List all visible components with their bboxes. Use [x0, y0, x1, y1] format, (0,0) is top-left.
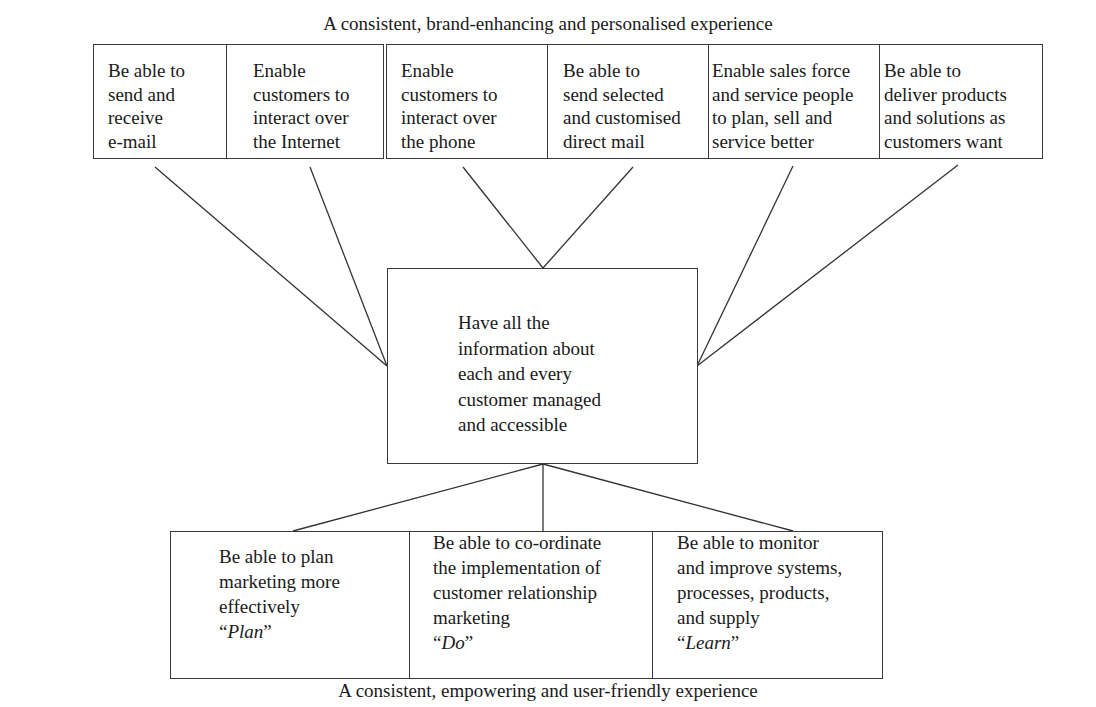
capability-desc-learn: Be able to monitor and improve systems, … [677, 532, 842, 628]
capability-text-learn: Be able to monitor and improve systems, … [677, 530, 842, 655]
connector-directmail-to-center [543, 167, 633, 268]
connector-center-to-learn [543, 464, 793, 531]
goal-text-internet: Enable customers to interact over the In… [253, 59, 350, 153]
capability-tag-close-plan: ” [263, 621, 271, 642]
goal-box-email: Be able to send and receive e-mail [93, 44, 228, 159]
goal-box-direct-mail: Be able to send selected and customised … [547, 44, 710, 159]
connector-deliver-to-center [697, 165, 958, 366]
capability-desc-do: Be able to co-ordinate the implementatio… [433, 532, 601, 628]
capability-desc-plan: Be able to plan marketing more effective… [219, 546, 340, 617]
goal-text-deliver: Be able to deliver products and solution… [884, 59, 1007, 153]
connector-email-to-center [155, 167, 387, 366]
connector-internet-to-center [310, 167, 387, 366]
connector-phone-to-center [463, 167, 543, 268]
capability-box-learn: Be able to monitor and improve systems, … [652, 531, 883, 679]
goal-box-internet: Enable customers to interact over the In… [226, 44, 384, 159]
goal-text-sales-force: Enable sales force and service people to… [712, 59, 853, 153]
top-caption: A consistent, brand-enhancing and person… [0, 13, 1096, 35]
capability-box-do: Be able to co-ordinate the implementatio… [409, 531, 654, 679]
connector-salesforce-to-center [697, 166, 793, 366]
goal-box-phone: Enable customers to interact over the ph… [386, 44, 549, 159]
capability-tag-do: Do [441, 632, 464, 653]
capability-tag-close-do: ” [465, 632, 473, 653]
goal-text-direct-mail: Be able to send selected and customised … [563, 59, 681, 153]
capability-tag-learn: Learn [685, 632, 730, 653]
capability-tag-plan: Plan [227, 621, 263, 642]
capability-tag-close-learn: ” [731, 632, 739, 653]
capability-box-plan: Be able to plan marketing more effective… [170, 531, 411, 679]
goal-box-sales-force: Enable sales force and service people to… [708, 44, 881, 159]
central-customer-info-box: Have all the information about each and … [387, 268, 698, 464]
capability-text-do: Be able to co-ordinate the implementatio… [433, 530, 601, 655]
goal-text-phone: Enable customers to interact over the ph… [401, 59, 498, 153]
goal-text-email: Be able to send and receive e-mail [108, 59, 185, 153]
central-customer-info-text: Have all the information about each and … [458, 310, 601, 438]
connector-center-to-plan [293, 464, 543, 531]
capability-text-plan: Be able to plan marketing more effective… [219, 544, 340, 644]
bottom-caption: A consistent, empowering and user-friend… [0, 680, 1096, 702]
goal-box-deliver: Be able to deliver products and solution… [879, 44, 1043, 159]
